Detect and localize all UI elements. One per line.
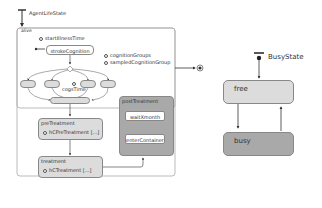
state-busy[interactable]: busy [223,132,294,156]
event-start-illness-time: startIllnessTime [39,35,85,41]
state-branch-1[interactable] [20,80,36,88]
event-cognition-groups: cognitionGroups [104,52,151,58]
state-branch-2[interactable] [44,80,60,88]
event-cogs-time: cogsTime [62,80,86,92]
event-icon [39,37,43,41]
state-enter-container[interactable]: enterContainer [125,134,165,144]
event-icon [43,131,47,135]
state-pre-treatment[interactable]: preTreatment hCPreTreatment [...] [38,118,103,140]
agent-life-state-label: AgentLifeState [29,10,66,16]
state-treatment[interactable]: treatment hCTreatment [...] [38,156,103,178]
state-merge[interactable] [50,97,90,104]
event-icon [104,61,108,65]
state-stroke-cognition[interactable]: strokeCognition [46,45,94,55]
state-free[interactable]: free [223,80,294,104]
state-wait-x-month[interactable]: waitXmonth [125,111,165,121]
event-icon [43,169,47,173]
event-icon [104,54,108,58]
event-sampled-cognition-group: sampledCognitionGroup [104,59,170,65]
state-branch-4[interactable] [100,80,116,88]
busy-state-label: BusyState [268,53,304,61]
alive-label: alive [21,28,32,34]
state-post-treatment[interactable]: postTreatment [119,96,174,156]
